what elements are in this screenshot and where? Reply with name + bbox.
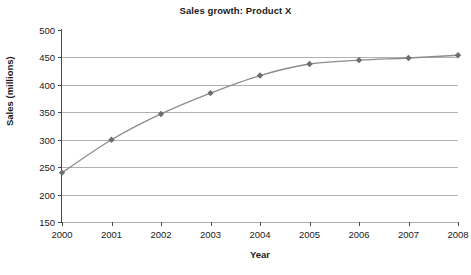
y-tick-label: 350 <box>39 107 55 118</box>
x-tick-mark-2004 <box>260 222 261 226</box>
chart-title: Sales growth: Product X <box>0 5 471 16</box>
x-tick-mark-2001 <box>112 222 113 226</box>
x-tick-mark-2006 <box>359 222 360 226</box>
x-tick-mark-2000 <box>62 222 63 226</box>
x-tick-label: 2001 <box>101 229 122 240</box>
y-tick-label: 300 <box>39 134 55 145</box>
plot-area: 1502002503003504004505002000200120022003… <box>62 30 458 222</box>
data-point-marker <box>207 90 213 96</box>
sales-growth-line-chart: Sales growth: Product X Sales (millions)… <box>0 0 471 275</box>
x-tick-label: 2006 <box>348 229 369 240</box>
y-axis-title: Sales (millions) <box>4 56 15 126</box>
data-point-marker <box>108 137 114 143</box>
x-tick-mark-2003 <box>211 222 212 226</box>
x-tick-mark-2005 <box>310 222 311 226</box>
x-tick-label: 2008 <box>447 229 468 240</box>
y-tick-label: 150 <box>39 217 55 228</box>
x-tick-label: 2002 <box>150 229 171 240</box>
x-tick-label: 2007 <box>398 229 419 240</box>
x-tick-label: 2005 <box>299 229 320 240</box>
x-tick-mark-2008 <box>458 222 459 226</box>
data-point-marker <box>405 55 411 61</box>
data-point-marker <box>257 72 263 78</box>
data-point-marker <box>158 111 164 117</box>
y-tick-label: 500 <box>39 25 55 36</box>
x-axis-title: Year <box>62 249 458 260</box>
y-tick-label: 250 <box>39 162 55 173</box>
x-tick-label: 2000 <box>51 229 72 240</box>
x-tick-mark-2007 <box>409 222 410 226</box>
data-point-marker <box>356 57 362 63</box>
x-tick-label: 2004 <box>249 229 270 240</box>
series-plot <box>62 30 458 222</box>
data-point-marker <box>306 61 312 67</box>
y-tick-label: 450 <box>39 52 55 63</box>
y-tick-label: 200 <box>39 189 55 200</box>
x-tick-mark-2002 <box>161 222 162 226</box>
data-point-marker <box>455 52 461 58</box>
x-tick-label: 2003 <box>200 229 221 240</box>
y-tick-label: 400 <box>39 79 55 90</box>
